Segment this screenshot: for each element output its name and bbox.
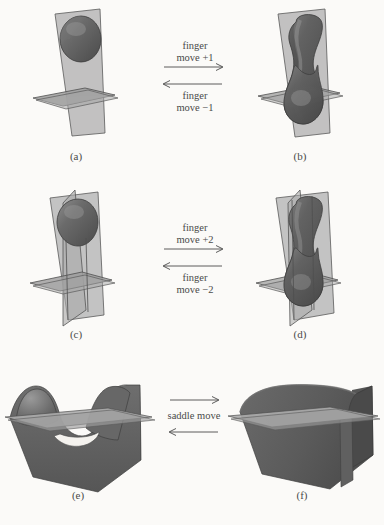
arrow-group-row2: finger move +2 finger move −2 (163, 222, 223, 295)
panel-e-caption: (e) (72, 489, 85, 502)
arrow-group-row3: saddle move (168, 397, 221, 436)
panel-b-caption: (b) (294, 150, 307, 163)
arrow-row1-backward-arrow (163, 81, 222, 88)
arrow-row1-backward-label-line1: finger (182, 90, 208, 101)
arrow-row1-backward-label-line2: move −1 (176, 102, 213, 113)
panel-b: (b) (258, 9, 343, 163)
panel-d-bulb-highlight (291, 274, 311, 290)
arrow-row2-backward-label-line1: finger (182, 272, 208, 283)
panel-e: (e) (5, 385, 155, 502)
panel-f-caption: (f) (297, 489, 308, 502)
arrow-group-row1: finger move +1 finger move −1 (163, 40, 223, 113)
arrow-row2-backward-arrow (163, 263, 222, 270)
arrow-row3-forward-arrow (170, 397, 219, 404)
arrow-row2-forward-label-line2: move +2 (176, 234, 213, 245)
panel-f-right-leg (340, 414, 353, 487)
panel-c-caption: (c) (70, 328, 83, 341)
arrow-row3-center-label: saddle move (168, 410, 221, 421)
arrow-row1-forward-label-line1: finger (182, 40, 208, 51)
arrow-row3-backward-arrow (169, 429, 218, 436)
panel-a-blob-highlight (66, 22, 86, 36)
panel-d-caption: (d) (294, 328, 307, 341)
panel-a: (a) (33, 9, 118, 163)
arrow-row2-forward-label-line1: finger (182, 222, 208, 233)
arrow-row2-forward-arrow (164, 246, 223, 253)
arrow-row1-forward-arrow (164, 64, 223, 71)
panel-c: (c) (30, 190, 115, 341)
panel-c-blob-highlight (64, 205, 84, 219)
panel-d: (d) (256, 190, 341, 341)
panel-f: (f) (228, 385, 380, 502)
figure-canvas: (a) (b) (c) (0, 0, 384, 525)
arrow-row2-backward-label-line2: move −2 (176, 284, 213, 295)
arrow-row1-forward-label-line2: move +1 (176, 52, 213, 63)
panel-b-bulb-highlight (291, 90, 311, 106)
panel-a-caption: (a) (70, 150, 83, 163)
